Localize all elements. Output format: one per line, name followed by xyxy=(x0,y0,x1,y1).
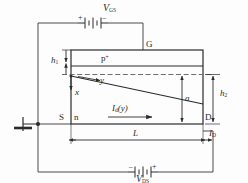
junction-dot xyxy=(36,122,40,126)
ground-symbol xyxy=(14,117,38,131)
origin-dot xyxy=(70,75,73,78)
a-label: a xyxy=(185,94,190,103)
diagram-canvas xyxy=(0,0,248,183)
h2-label: h2 xyxy=(220,89,227,98)
vds-label: VDS xyxy=(136,174,149,183)
vds-minus-sign: − xyxy=(129,164,134,172)
drain-current-label: ID xyxy=(209,129,216,138)
gate-terminal-label: G xyxy=(146,40,153,49)
drain-loop-wire xyxy=(158,131,213,172)
device-body-outline xyxy=(71,50,203,124)
y-axis-label: y xyxy=(100,76,104,85)
vgs-label: VGS xyxy=(103,3,116,13)
vgs-minus-sign: − xyxy=(102,15,107,23)
h1-dimension xyxy=(62,50,71,75)
channel-current-label: Id(y) xyxy=(112,104,128,113)
source-ground-wire xyxy=(38,124,128,172)
jfet-circuit-diagram: VGS + − VDS − + G S D p+ n h1 h2 a x y I… xyxy=(0,0,248,183)
source-terminal-label: S xyxy=(59,113,64,122)
depletion-boundary-line xyxy=(71,76,203,104)
x-axis-label: x xyxy=(75,88,79,97)
h1-label: h1 xyxy=(51,56,58,65)
n-region-label: n xyxy=(74,113,79,122)
vds-plus-sign: + xyxy=(152,163,157,171)
pplus-region-label: p+ xyxy=(101,54,109,63)
vgs-plus-sign: + xyxy=(78,14,83,22)
drain-terminal-label: D xyxy=(205,113,212,122)
channel-length-label: L xyxy=(133,129,138,138)
